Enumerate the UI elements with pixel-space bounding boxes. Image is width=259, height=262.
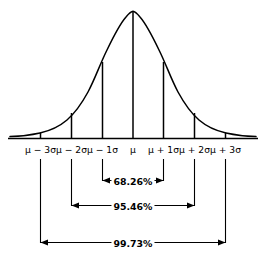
distribution-svg: [0, 0, 259, 262]
axis-tick-label-minus-3-sigma: μ − 3σ: [25, 144, 56, 155]
axis-tick-label-minus-1-sigma: μ − 1σ: [87, 144, 118, 155]
span-label-95-percent: 95.46%: [111, 200, 154, 211]
arrowhead-99-right: [218, 239, 226, 245]
arrowhead-95-left: [72, 202, 80, 208]
axis-tick-label-plus-2-sigma: μ + 2σ: [179, 144, 210, 155]
span-label-68-percent: 68.26%: [111, 175, 154, 186]
axis-tick-label-plus-3-sigma: μ + 3σ: [210, 144, 241, 155]
arrowhead-68-right: [156, 177, 164, 183]
arrowhead-68-left: [103, 177, 111, 183]
axis-tick-label-mu: μ: [130, 144, 136, 155]
span-label-99-percent: 99.73%: [111, 237, 154, 248]
axis-tick-label-minus-2-sigma: μ − 2σ: [56, 144, 87, 155]
arrowhead-99-left: [41, 239, 49, 245]
axis-tick-label-plus-1-sigma: μ + 1σ: [148, 144, 179, 155]
arrowhead-95-right: [187, 202, 195, 208]
normal-distribution-figure: μ − 3σ μ − 2σ μ − 1σ μ μ + 1σ μ + 2σ μ +…: [0, 0, 259, 262]
